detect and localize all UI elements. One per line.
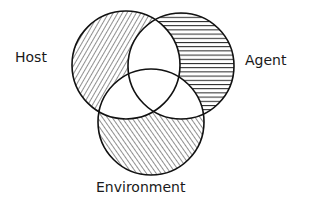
host-label: Host xyxy=(15,49,47,65)
agent-label: Agent xyxy=(245,52,286,68)
venn-diagram xyxy=(0,0,312,201)
environment-label: Environment xyxy=(96,179,185,195)
